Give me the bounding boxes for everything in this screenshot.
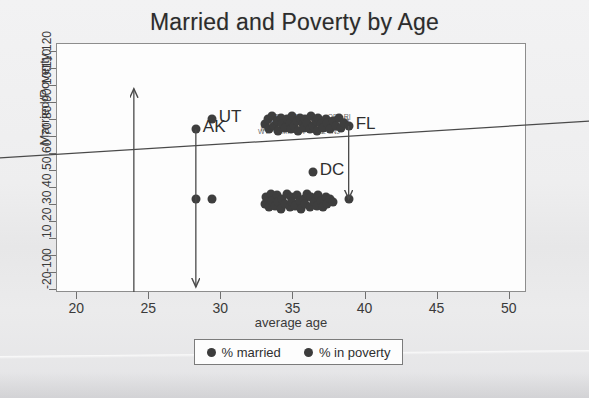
data-point bbox=[191, 194, 200, 203]
data-point bbox=[344, 194, 353, 203]
y-tick-mark bbox=[49, 51, 56, 52]
x-tick-label: 45 bbox=[429, 300, 445, 316]
chart-figure: Married and Poverty by Age Married/Pover… bbox=[0, 0, 589, 398]
data-point-label-fl: FL bbox=[356, 114, 376, 134]
x-tick-mark bbox=[76, 292, 77, 299]
y-tick-mark bbox=[49, 153, 56, 154]
y-tick-mark bbox=[49, 119, 56, 120]
x-tick-label: 40 bbox=[357, 300, 373, 316]
x-tick-label: 30 bbox=[213, 300, 229, 316]
x-tick-mark bbox=[509, 292, 510, 299]
data-point-label-dc: DC bbox=[320, 160, 345, 180]
x-tick-label: 20 bbox=[68, 300, 84, 316]
x-tick-mark bbox=[437, 292, 438, 299]
legend-marker-icon bbox=[207, 348, 216, 357]
x-tick-mark bbox=[220, 292, 221, 299]
chart-legend: % married % in poverty bbox=[194, 339, 403, 365]
x-axis-title: average age bbox=[56, 315, 526, 330]
legend-label-married: % married bbox=[222, 345, 281, 360]
data-point bbox=[344, 122, 353, 131]
legend-item-poverty: % in poverty bbox=[304, 345, 391, 360]
y-tick-mark bbox=[49, 85, 56, 86]
data-point bbox=[308, 167, 317, 176]
legend-item-married: % married bbox=[207, 345, 281, 360]
y-tick-mark bbox=[49, 136, 56, 137]
legend-marker-icon bbox=[304, 348, 313, 357]
y-tick-mark bbox=[49, 68, 56, 69]
x-tick-mark bbox=[292, 292, 293, 299]
y-tick-mark bbox=[49, 187, 56, 188]
x-tick-mark bbox=[148, 292, 149, 299]
data-point bbox=[328, 198, 337, 207]
x-tick-label: 50 bbox=[501, 300, 517, 316]
x-tick-label: 25 bbox=[140, 300, 156, 316]
y-tick-mark bbox=[49, 102, 56, 103]
x-tick-label: 35 bbox=[285, 300, 301, 316]
y-tick-mark bbox=[49, 204, 56, 205]
x-tick-mark bbox=[365, 292, 366, 299]
legend-label-poverty: % in poverty bbox=[319, 345, 391, 360]
chart-title: Married and Poverty by Age bbox=[0, 9, 589, 36]
data-point bbox=[191, 125, 200, 134]
y-tick-mark bbox=[49, 170, 56, 171]
data-point-label-ut: UT bbox=[219, 107, 242, 127]
plot-area bbox=[56, 43, 526, 292]
data-point bbox=[207, 194, 216, 203]
